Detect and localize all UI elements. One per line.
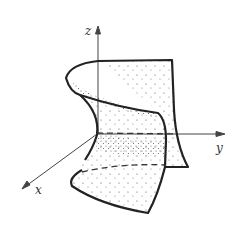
y-axis-label: y (216, 141, 223, 155)
saddle-surface-figure (0, 0, 244, 235)
y-arrowhead-icon (216, 132, 225, 137)
x-arrowhead-icon (22, 181, 30, 189)
x-axis-label: x (35, 183, 42, 197)
z-arrowhead-icon (96, 26, 101, 34)
z-axis-label: z (85, 24, 91, 38)
